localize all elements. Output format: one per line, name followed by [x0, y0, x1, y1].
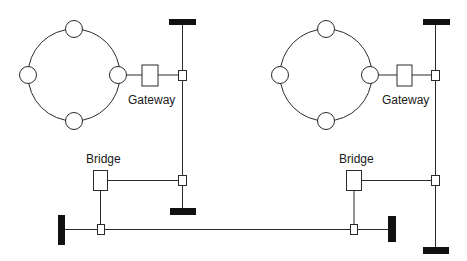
bottom-bus-right-terminator — [388, 216, 396, 242]
left-ring-station-top — [66, 21, 83, 38]
left-vertical-bus-bridge-tap — [179, 176, 187, 186]
left-bridge-label: Bridge — [86, 152, 121, 166]
bottom-bus-left-bridge-tap — [98, 225, 105, 235]
right-ring-cable — [280, 29, 372, 121]
left-gateway-label: Gateway — [128, 93, 175, 107]
right-ring-station-left — [272, 67, 289, 84]
left-ring-station-left — [20, 67, 37, 84]
right-vertical-bus-top-terminator — [423, 19, 450, 25]
bottom-bus-left-terminator — [58, 215, 65, 245]
right-gateway-box — [397, 65, 412, 86]
bottom-bus-right-bridge-tap — [351, 225, 358, 235]
right-token-ring — [272, 21, 379, 130]
left-bridge-box — [94, 171, 108, 191]
right-vertical-bus-bridge-tap — [432, 176, 440, 186]
left-gateway-box — [142, 65, 158, 86]
network-diagram: Gateway Bridge Gateway Bridge — [0, 0, 467, 261]
right-gateway-label: Gateway — [382, 93, 429, 107]
left-ring-cable — [28, 29, 120, 121]
right-ring-station-bottom — [318, 113, 335, 130]
right-ring-station-right — [362, 67, 379, 84]
left-vertical-bus-top-terminator — [169, 19, 196, 25]
left-ring-station-right — [110, 67, 127, 84]
left-vertical-bus-gateway-tap — [179, 71, 187, 81]
right-bridge-label: Bridge — [339, 152, 374, 166]
left-token-ring — [20, 21, 127, 130]
right-vertical-bus-gateway-tap — [432, 71, 440, 81]
right-vertical-bus-bottom-terminator — [423, 247, 449, 254]
right-bridge-box — [347, 171, 362, 191]
left-ring-station-bottom — [66, 113, 83, 130]
right-ring-station-top — [318, 21, 335, 38]
left-vertical-bus-bottom-terminator — [170, 208, 196, 215]
